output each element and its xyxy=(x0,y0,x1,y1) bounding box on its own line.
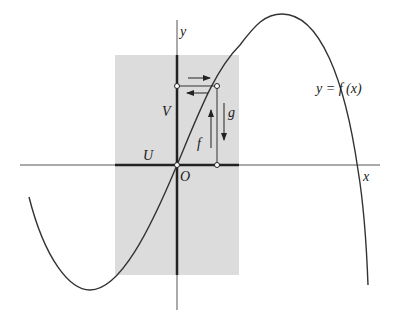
U-label: U xyxy=(143,148,154,163)
diagram-canvas: y x O U V f g y = f (x) xyxy=(0,0,397,327)
point-on-curve xyxy=(215,84,220,89)
curve-label: y = f (x) xyxy=(314,81,362,97)
origin-label: O xyxy=(180,169,190,184)
point-on-y-axis xyxy=(175,84,180,89)
x-axis-label: x xyxy=(362,169,370,184)
V-label: V xyxy=(162,104,172,119)
point-on-x-axis xyxy=(215,163,220,168)
origin-point xyxy=(175,163,180,168)
g-label: g xyxy=(228,105,235,120)
y-axis-label: y xyxy=(178,24,187,39)
